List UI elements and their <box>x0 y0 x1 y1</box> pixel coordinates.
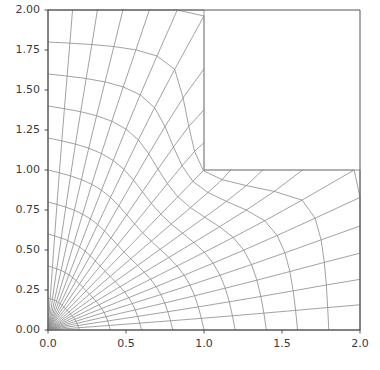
y-axis-tick-label: 1.75 <box>0 43 40 56</box>
mesh-line <box>48 10 73 330</box>
mesh-line <box>48 10 149 330</box>
mesh-figure: 0.000.250.500.751.001.251.501.752.00 0.0… <box>0 0 380 370</box>
y-axis-tick-label: 0.00 <box>0 323 40 336</box>
y-axis-tick-label: 0.25 <box>0 283 40 296</box>
y-axis-tick-label: 2.00 <box>0 3 40 16</box>
y-axis-tick-label: 1.25 <box>0 123 40 136</box>
y-axis-tick-label: 1.50 <box>0 83 40 96</box>
mesh-line <box>48 226 360 330</box>
y-axis-tick-label: 1.00 <box>0 163 40 176</box>
x-axis-tick-label: 2.0 <box>335 337 380 350</box>
x-axis-tick-label: 0.0 <box>23 337 73 350</box>
x-axis-tick-label: 1.5 <box>257 337 307 350</box>
mesh-line <box>48 305 360 330</box>
mesh-line <box>48 10 97 330</box>
x-axis-tick-label: 1.0 <box>179 337 229 350</box>
y-axis-tick-label: 0.75 <box>0 203 40 216</box>
mesh-plot-canvas <box>0 0 380 370</box>
x-axis-tick-label: 0.5 <box>101 337 151 350</box>
y-axis-tick-label: 0.50 <box>0 243 40 256</box>
mesh-line <box>48 279 360 330</box>
